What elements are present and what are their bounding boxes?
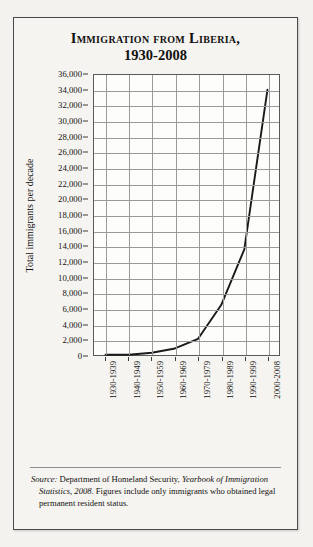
plot-area: Total immigrants per decade 02,0004,0006… xyxy=(14,74,299,414)
x-tick-label: 2000-2008 xyxy=(272,361,282,399)
x-tick-mark xyxy=(222,357,223,361)
y-tick-mark xyxy=(83,324,88,325)
x-tick-mark xyxy=(151,357,152,361)
gridline-vertical xyxy=(152,75,153,355)
y-tick-label: 30,000 xyxy=(58,117,82,126)
gridline-horizontal xyxy=(94,326,279,327)
y-tick-mark xyxy=(83,89,88,90)
source-divider xyxy=(30,467,281,468)
y-tick-mark xyxy=(83,183,88,184)
y-tick-mark xyxy=(83,293,88,294)
y-tick-label: 6,000 xyxy=(62,305,82,314)
x-tick-label: 1960-1969 xyxy=(178,361,188,399)
y-tick-mark xyxy=(83,309,88,310)
x-tick-mark xyxy=(105,357,106,361)
y-tick-label: 32,000 xyxy=(58,101,82,110)
gridline-vertical xyxy=(176,75,177,355)
gridline-vertical xyxy=(269,75,270,355)
x-tick-label: 1930-1939 xyxy=(108,361,118,399)
y-tick-label: 16,000 xyxy=(58,226,82,235)
gridline-vertical xyxy=(129,75,130,355)
y-tick-label: 28,000 xyxy=(58,132,82,141)
y-tick-mark xyxy=(83,105,88,106)
chart-title-line2: 1930-2008 xyxy=(24,47,287,64)
chart-title-line1: Immigration from Liberia, xyxy=(71,30,241,46)
y-tick-mark xyxy=(83,215,88,216)
x-tick-label: 1950-1959 xyxy=(155,361,165,399)
x-tick-label: 1990-1999 xyxy=(248,361,258,399)
y-tick-mark xyxy=(83,199,88,200)
gridline-horizontal xyxy=(94,169,279,170)
y-tick-mark xyxy=(83,246,88,247)
y-tick-mark xyxy=(83,262,88,263)
gridline-vertical xyxy=(246,75,247,355)
x-tick-label: 1980-1989 xyxy=(225,361,235,399)
y-tick-label: 22,000 xyxy=(58,179,82,188)
x-axis-ticks: 1930-19391940-19491950-19591960-19691970… xyxy=(93,357,280,414)
y-tick-mark xyxy=(83,121,88,122)
y-tick-label: 20,000 xyxy=(58,195,82,204)
y-tick-label: 10,000 xyxy=(58,273,82,282)
x-tick-mark xyxy=(245,357,246,361)
gridline-horizontal xyxy=(94,247,279,248)
y-tick-label: 14,000 xyxy=(58,242,82,251)
series-line xyxy=(94,75,279,355)
x-tick-mark xyxy=(128,357,129,361)
gridline-horizontal xyxy=(94,216,279,217)
gridline-horizontal xyxy=(94,106,279,107)
gridline-horizontal xyxy=(94,153,279,154)
y-tick-label: 8,000 xyxy=(62,289,82,298)
gridline-horizontal xyxy=(94,294,279,295)
y-tick-mark xyxy=(83,356,88,357)
y-tick-label: 0 xyxy=(78,352,82,361)
y-tick-label: 36,000 xyxy=(58,70,82,79)
x-tick-label: 1940-1949 xyxy=(132,361,142,399)
y-tick-label: 12,000 xyxy=(58,258,82,267)
gridline-horizontal xyxy=(94,200,279,201)
y-axis-ticks: 02,0004,0006,0008,00010,00012,00014,0001… xyxy=(36,74,88,356)
gridline-vertical xyxy=(106,75,107,355)
x-tick-mark xyxy=(175,357,176,361)
plot-canvas xyxy=(93,74,280,356)
y-tick-mark xyxy=(83,136,88,137)
y-tick-mark xyxy=(83,168,88,169)
chart-title: Immigration from Liberia, 1930-2008 xyxy=(24,30,287,64)
y-tick-mark xyxy=(83,152,88,153)
y-tick-label: 26,000 xyxy=(58,148,82,157)
x-tick-label: 1970-1979 xyxy=(202,361,212,399)
y-tick-label: 34,000 xyxy=(58,85,82,94)
gridline-horizontal xyxy=(94,263,279,264)
y-tick-mark xyxy=(83,230,88,231)
gridline-vertical xyxy=(223,75,224,355)
gridline-horizontal xyxy=(94,279,279,280)
y-tick-mark xyxy=(83,277,88,278)
figure-card: Immigration from Liberia, 1930-2008 Tota… xyxy=(13,17,298,530)
source-label: Source: xyxy=(31,474,57,484)
gridline-horizontal xyxy=(94,310,279,311)
y-tick-label: 24,000 xyxy=(58,164,82,173)
y-tick-mark xyxy=(83,340,88,341)
x-tick-mark xyxy=(268,357,269,361)
gridline-horizontal xyxy=(94,91,279,92)
y-tick-label: 2,000 xyxy=(62,336,82,345)
source-note: Source: Department of Homeland Security,… xyxy=(31,473,283,510)
x-tick-mark xyxy=(198,357,199,361)
gridline-horizontal xyxy=(94,185,279,186)
y-tick-mark xyxy=(83,74,88,75)
gridline-horizontal xyxy=(94,341,279,342)
y-axis-label-text: Total immigrants per decade xyxy=(25,158,36,272)
gridline-horizontal xyxy=(94,232,279,233)
gridline-horizontal xyxy=(94,138,279,139)
gridline-vertical xyxy=(199,75,200,355)
y-tick-label: 18,000 xyxy=(58,211,82,220)
source-text-part1: Department of Homeland Security, xyxy=(57,474,182,484)
y-tick-label: 4,000 xyxy=(62,320,82,329)
gridline-horizontal xyxy=(94,122,279,123)
